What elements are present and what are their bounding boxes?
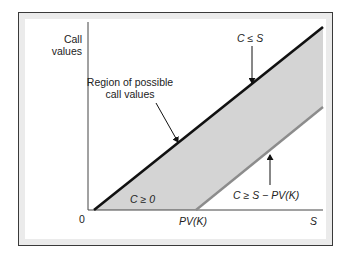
lower-intrinsic-label: C ≥ S − PV(K) bbox=[233, 189, 299, 201]
upper-bound-label: C ≤ S bbox=[237, 32, 263, 44]
x-tick-label-pvk: PV(K) bbox=[179, 215, 207, 227]
y-axis-label-line1: Call bbox=[54, 33, 82, 45]
region-label-line2: call values bbox=[80, 88, 180, 100]
region-arrow bbox=[156, 103, 178, 142]
lower-zero-label: C ≥ 0 bbox=[130, 193, 155, 205]
x-axis-label: S bbox=[310, 215, 317, 227]
y-axis-label-line2: values bbox=[48, 45, 82, 57]
region-label-line1: Region of possible bbox=[80, 76, 180, 88]
origin-label: 0 bbox=[79, 213, 85, 225]
plot-area bbox=[0, 0, 351, 259]
